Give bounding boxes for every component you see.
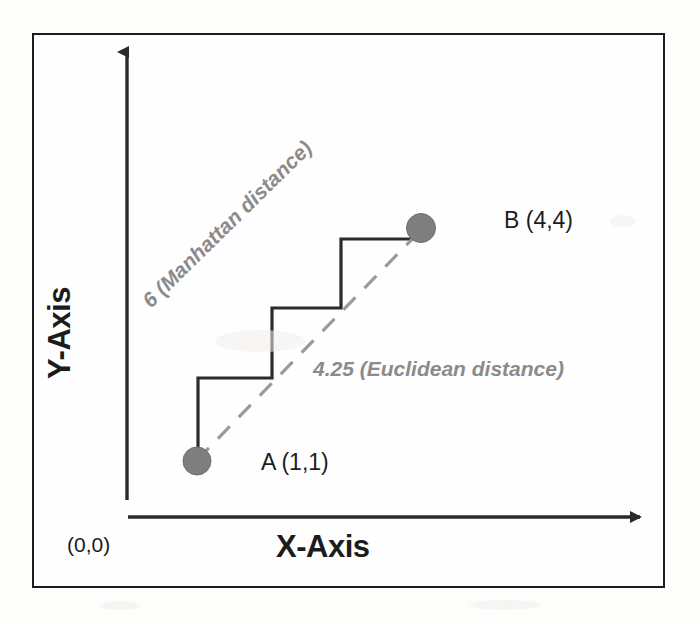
euclidean-distance-label: 4.25 (Euclidean distance) — [313, 357, 564, 381]
origin-label: (0,0) — [67, 533, 110, 557]
scan-speckle — [610, 215, 636, 227]
distance-diagram-figure: Y-Axis X-Axis (0,0) A (1,1) B (4,4) 6 (M… — [0, 0, 700, 623]
scan-speckle — [470, 600, 540, 610]
scan-speckle — [215, 330, 305, 352]
scan-speckle — [100, 601, 140, 610]
point-a-label: A (1,1) — [261, 449, 329, 476]
point-b-label: B (4,4) — [504, 207, 573, 234]
figure-border — [32, 33, 665, 588]
x-axis-label: X-Axis — [276, 529, 369, 565]
y-axis-label: Y-Axis — [42, 268, 78, 398]
